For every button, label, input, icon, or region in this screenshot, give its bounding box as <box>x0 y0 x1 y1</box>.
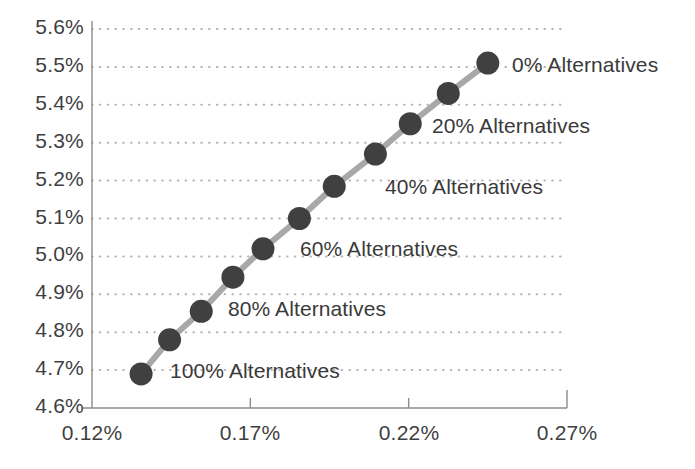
data-point-marker[interactable] <box>190 300 213 323</box>
y-axis-tick-label: 4.7% <box>8 356 84 380</box>
y-axis-tick-label: 4.6% <box>8 394 84 418</box>
x-axis-tick-label: 0.12% <box>37 421 147 445</box>
data-point-marker[interactable] <box>288 207 311 230</box>
data-point-marker[interactable] <box>252 237 275 260</box>
y-axis-tick-label: 5.4% <box>8 91 84 115</box>
series-annotation-label: 100% Alternatives <box>170 359 340 383</box>
y-axis-tick-label: 5.1% <box>8 205 84 229</box>
data-point-marker[interactable] <box>437 82 460 105</box>
x-axis-tick-label: 0.27% <box>512 421 622 445</box>
series-annotation-label: 20% Alternatives <box>432 114 590 138</box>
y-axis-tick-label: 5.3% <box>8 129 84 153</box>
x-axis-tick-label: 0.22% <box>354 421 464 445</box>
data-point-marker[interactable] <box>221 266 244 289</box>
series-annotation-label: 60% Alternatives <box>300 237 458 261</box>
data-point-marker[interactable] <box>364 143 387 166</box>
y-axis-tick-label: 5.0% <box>8 242 84 266</box>
series-annotation-label: 40% Alternatives <box>385 175 543 199</box>
series-annotation-label: 80% Alternatives <box>228 297 386 321</box>
data-point-marker[interactable] <box>399 112 422 135</box>
scatter-chart: 5.6%5.5%5.4%5.3%5.2%5.1%5.0%4.9%4.8%4.7%… <box>0 0 695 469</box>
y-axis-tick-label: 4.8% <box>8 318 84 342</box>
y-axis-tick-label: 5.5% <box>8 53 84 77</box>
x-axis-tick-label: 0.17% <box>195 421 305 445</box>
series-annotation-label: 0% Alternatives <box>512 53 658 77</box>
data-point-marker[interactable] <box>130 362 153 385</box>
data-point-marker[interactable] <box>476 52 499 75</box>
y-axis-tick-label: 5.2% <box>8 167 84 191</box>
axis-lines-group <box>82 21 567 408</box>
y-axis-tick-label: 5.6% <box>8 15 84 39</box>
y-axis-tick-label: 4.9% <box>8 280 84 304</box>
page-edge-artifact <box>150 459 695 469</box>
data-point-marker[interactable] <box>323 175 346 198</box>
data-point-marker[interactable] <box>158 328 181 351</box>
